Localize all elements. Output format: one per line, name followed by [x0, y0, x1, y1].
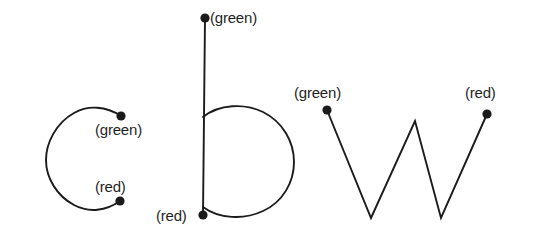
letter-c-end-dot-red: [115, 196, 124, 205]
label-c-green: (green): [95, 122, 142, 137]
label-w-green: (green): [294, 85, 341, 100]
letter-b-start-dot-green: [200, 13, 209, 22]
letter-b-bowl-stroke: [203, 106, 294, 217]
stroke-canvas: [0, 0, 537, 252]
label-c-red: (red): [95, 179, 126, 194]
letter-stroke-diagram: (green) (red) (green) (red) (green) (red…: [0, 0, 537, 252]
letter-b-end-dot-red: [198, 210, 207, 219]
letter-w-end-dot-red: [482, 109, 491, 118]
letter-w-start-dot-green: [322, 105, 331, 114]
letter-c-start-dot-green: [116, 111, 125, 120]
label-b-green: (green): [210, 10, 257, 25]
label-w-red: (red): [465, 85, 496, 100]
letter-w-stroke: [327, 110, 487, 218]
label-b-red: (red): [156, 208, 187, 223]
